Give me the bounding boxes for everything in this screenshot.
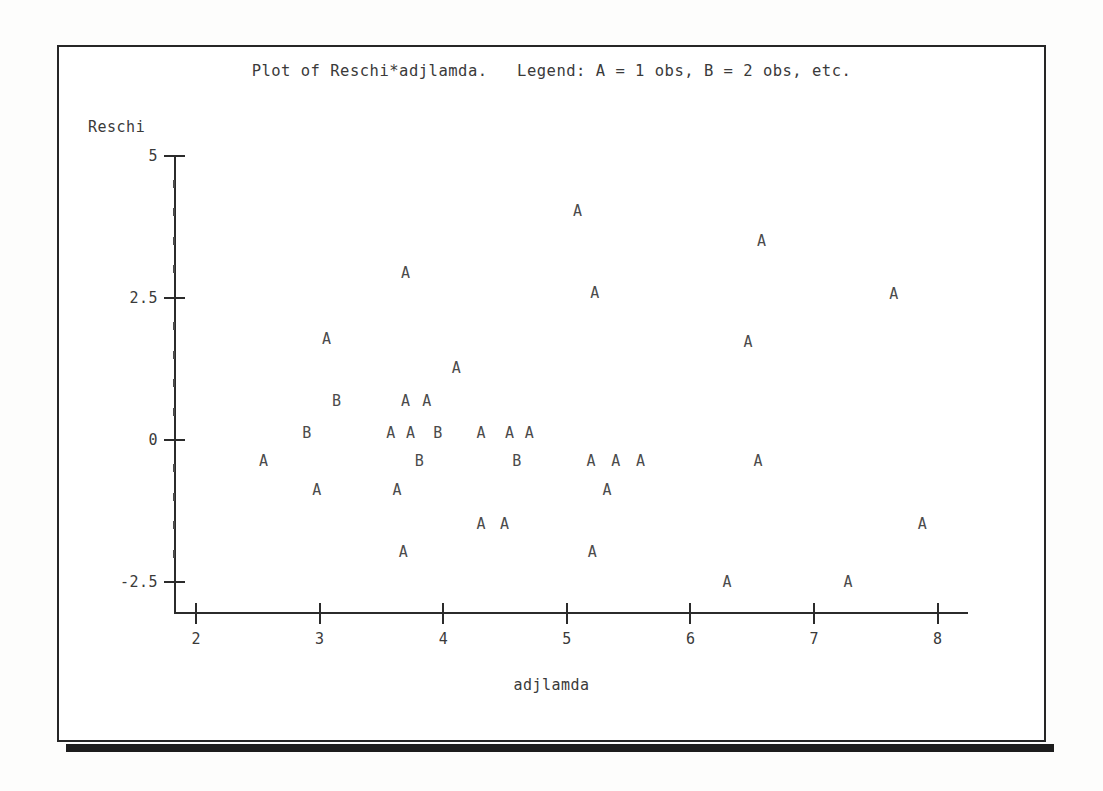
data-point-marker: A xyxy=(312,483,322,498)
y-axis-major-tick xyxy=(164,297,185,299)
x-axis-major-tick xyxy=(442,603,444,624)
y-axis-minor-tick xyxy=(173,237,175,245)
y-axis-minor-tick xyxy=(173,208,175,216)
x-axis-tick-label: 7 xyxy=(794,630,834,648)
y-axis-tick-label: -2.5 xyxy=(68,573,158,591)
y-axis-minor-tick xyxy=(173,379,175,387)
data-point-marker: A xyxy=(590,286,600,301)
x-axis-tick-label: 8 xyxy=(918,630,958,648)
x-axis-major-tick xyxy=(813,603,815,624)
y-axis-minor-tick xyxy=(173,550,175,558)
x-axis-label: adjlamda xyxy=(0,676,1103,694)
data-point-marker: A xyxy=(406,426,416,441)
plot-title: Plot of Reschi*adjlamda. Legend: A = 1 o… xyxy=(0,62,1103,80)
y-axis-major-tick xyxy=(164,439,185,441)
x-axis-tick-label: 4 xyxy=(423,630,463,648)
data-point-marker: A xyxy=(401,394,411,409)
data-point-marker: A xyxy=(500,517,510,532)
data-point-marker: A xyxy=(722,575,732,590)
y-axis-minor-tick xyxy=(173,180,175,188)
data-point-marker: A xyxy=(753,454,763,469)
y-axis-tick-label: 2.5 xyxy=(68,289,158,307)
data-point-marker: A xyxy=(477,426,487,441)
y-axis-major-tick xyxy=(164,155,185,157)
data-point-marker: A xyxy=(259,454,269,469)
data-point-marker: A xyxy=(743,335,753,350)
data-point-marker: A xyxy=(422,394,432,409)
y-axis-minor-tick xyxy=(173,493,175,501)
data-point-marker: A xyxy=(889,287,899,302)
data-point-marker: B xyxy=(302,426,312,441)
y-axis-minor-tick xyxy=(173,464,175,472)
x-axis-tick-label: 3 xyxy=(300,630,340,648)
data-point-marker: A xyxy=(844,575,854,590)
x-axis-major-tick xyxy=(195,603,197,624)
data-point-marker: A xyxy=(918,517,928,532)
data-point-marker: A xyxy=(757,234,767,249)
data-point-marker: A xyxy=(636,454,646,469)
x-axis-tick-label: 6 xyxy=(670,630,710,648)
data-point-marker: A xyxy=(322,332,332,347)
data-point-marker: A xyxy=(386,426,396,441)
x-axis-tick-label: 5 xyxy=(547,630,587,648)
x-axis-major-tick xyxy=(319,603,321,624)
y-axis-minor-tick xyxy=(173,408,175,416)
data-point-marker: A xyxy=(611,454,621,469)
data-point-marker: A xyxy=(399,545,409,560)
x-axis-major-tick xyxy=(937,603,939,624)
y-axis-major-tick xyxy=(164,581,185,583)
data-point-marker: A xyxy=(573,204,583,219)
x-axis-line xyxy=(174,612,968,614)
x-axis-major-tick xyxy=(566,603,568,624)
data-point-marker: B xyxy=(433,426,443,441)
y-axis-label: Reschi xyxy=(88,118,145,136)
x-axis-major-tick xyxy=(689,603,691,624)
y-axis-minor-tick xyxy=(173,322,175,330)
data-point-marker: A xyxy=(525,426,535,441)
data-point-marker: A xyxy=(587,454,597,469)
plot-frame-shadow xyxy=(66,744,1054,752)
y-axis-minor-tick xyxy=(173,521,175,529)
y-axis-minor-tick xyxy=(173,265,175,273)
y-axis-minor-tick xyxy=(173,351,175,359)
data-point-marker: A xyxy=(452,361,462,376)
data-point-marker: A xyxy=(603,483,613,498)
data-point-marker: A xyxy=(505,426,515,441)
data-point-marker: B xyxy=(332,394,342,409)
y-axis-tick-label: 0 xyxy=(68,431,158,449)
data-point-marker: B xyxy=(512,454,522,469)
data-point-marker: B xyxy=(415,454,425,469)
y-axis-tick-label: 5 xyxy=(68,147,158,165)
data-point-marker: A xyxy=(477,517,487,532)
x-axis-tick-label: 2 xyxy=(176,630,216,648)
data-point-marker: A xyxy=(588,545,598,560)
data-point-marker: A xyxy=(392,483,402,498)
data-point-marker: A xyxy=(401,266,411,281)
